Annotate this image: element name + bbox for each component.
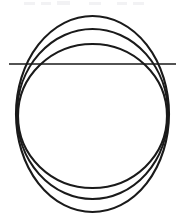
nested-circles-diagram: [0, 0, 187, 223]
figure-container: [0, 0, 187, 223]
figure-background: [0, 0, 187, 223]
